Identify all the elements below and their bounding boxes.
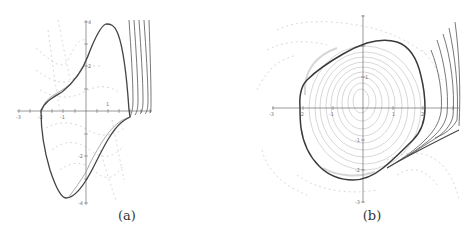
x-tick-label: -3: [269, 111, 274, 117]
y-tick-label: -1: [355, 137, 360, 143]
caption-b: (b): [352, 208, 392, 223]
direction-field-b: [257, 22, 459, 200]
direction-field-a: [36, 20, 124, 200]
x-tick-label: -1: [60, 114, 65, 120]
y-tick-label: 4: [88, 19, 91, 25]
y-tick-label: 2: [88, 63, 91, 69]
panel-a: -3 -2 -1 1 4 2 -2 -4 (a): [0, 0, 237, 210]
right-trajectories-b: [387, 22, 460, 168]
x-tick-label: -1: [329, 111, 334, 117]
nullcline-a: [42, 30, 100, 110]
phase-portrait-a: -3 -2 -1 1 4 2 -2 -4: [0, 0, 237, 210]
x-tick-label: 1: [106, 101, 109, 107]
x-tick-label: -3: [16, 114, 21, 120]
tick-labels-b: -3 -2 -1 1 2 1 -1 -2 -3: [269, 74, 424, 205]
y-tick-label: 1: [365, 74, 368, 80]
x-tick-label: 1: [392, 111, 395, 117]
panel-b: -3 -2 -1 1 2 1 -1 -2 -3 (b): [237, 0, 474, 210]
right-trajectories-a: [129, 20, 151, 117]
y-tick-label: -2: [78, 153, 83, 159]
y-tick-label: -2: [355, 167, 360, 173]
y-tick-label: -4: [78, 200, 83, 206]
phase-portrait-b: -3 -2 -1 1 2 1 -1 -2 -3: [237, 0, 474, 210]
y-tick-label: -3: [355, 199, 360, 205]
closed-orbit-b: [300, 40, 425, 180]
caption-a: (a): [107, 208, 147, 223]
